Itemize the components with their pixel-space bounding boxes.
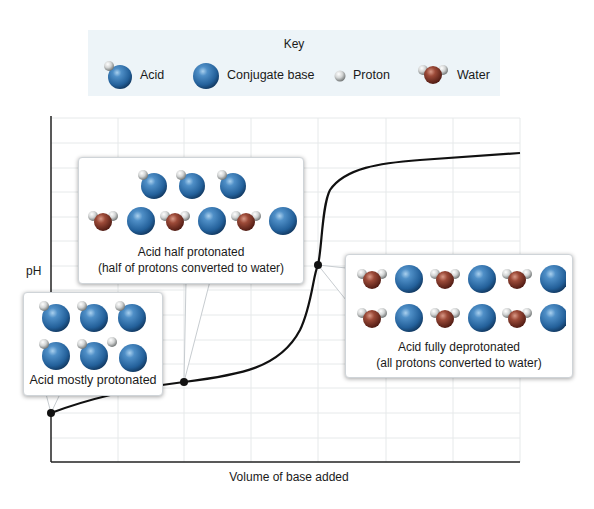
half-equivalence-point — [180, 378, 188, 386]
callout-fully-deprotonated: Acid fully deprotonated (all protons con… — [345, 254, 573, 378]
molecule-row-acids — [137, 168, 247, 200]
water-and-base-molecules-icon — [354, 301, 566, 333]
y-axis-label: pH — [26, 264, 41, 278]
acid-and-proton-molecules-icon — [36, 336, 152, 372]
molecule-row-water-base-top — [354, 262, 566, 294]
water-and-base-molecules-icon — [85, 204, 297, 236]
acid-molecules-icon — [137, 168, 247, 200]
key-item-proton: Proton — [333, 60, 390, 90]
molecule-row-water-base — [85, 204, 297, 236]
callout-pointer-middle — [184, 281, 210, 382]
callout-fully-subtitle: (all protons converted to water) — [346, 356, 572, 371]
callout-half-protonated: Acid half protonated (half of protons co… — [78, 157, 304, 284]
acid-molecule-icon — [100, 60, 134, 90]
callout-half-title: Acid half protonated — [79, 245, 303, 260]
equivalence-point — [314, 261, 322, 269]
callout-mostly-title: Acid mostly protonated — [24, 373, 162, 388]
proton-icon — [333, 60, 347, 90]
start-point — [47, 409, 55, 417]
molecule-row-acids-bottom — [36, 336, 152, 372]
callout-half-subtitle: (half of protons converted to water) — [79, 261, 303, 276]
callout-mostly-protonated: Acid mostly protonated — [23, 292, 163, 396]
molecule-row-water-base-bottom — [354, 301, 566, 333]
water-and-base-molecules-icon — [354, 262, 566, 294]
key-title: Key — [88, 37, 500, 51]
x-axis-label: Volume of base added — [229, 470, 348, 484]
conjugate-base-molecule-icon — [191, 60, 221, 90]
water-molecule-icon — [415, 60, 451, 90]
callout-pointer-right — [318, 265, 346, 300]
key-item-water: Water — [415, 60, 490, 90]
acid-molecules-icon — [36, 298, 152, 334]
x-axis-label-wrap: Volume of base added — [0, 470, 594, 484]
molecule-row-acids-top — [36, 298, 152, 334]
key-legend: Key Acid Conjugate base Proton Water — [88, 30, 500, 96]
key-item-conjugate-base: Conjugate base — [191, 60, 315, 90]
key-item-acid: Acid — [100, 60, 164, 90]
callout-fully-title: Acid fully deprotonated — [346, 340, 572, 355]
